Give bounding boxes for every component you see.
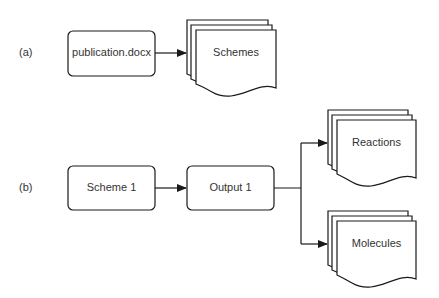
panel-a-label: (a) xyxy=(19,46,32,58)
reactions-document-stack xyxy=(328,110,416,186)
schemes-document-stack xyxy=(187,20,276,96)
molecules-label: Molecules xyxy=(337,237,416,249)
scheme-1-label: Scheme 1 xyxy=(68,181,155,193)
output-1-label: Output 1 xyxy=(187,181,274,193)
panel-b-label: (b) xyxy=(19,181,32,193)
branch-connector xyxy=(274,143,301,244)
molecules-document-stack xyxy=(328,211,416,287)
diagram-canvas xyxy=(0,0,439,298)
reactions-label: Reactions xyxy=(337,136,416,148)
schemes-label: Schemes xyxy=(196,46,276,58)
publication-docx-label: publication.docx xyxy=(68,46,155,58)
